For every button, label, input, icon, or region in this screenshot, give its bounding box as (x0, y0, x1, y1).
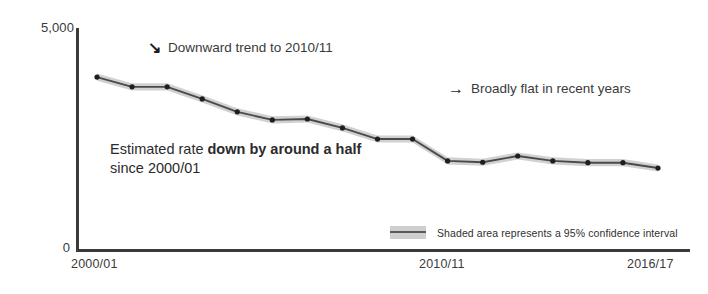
data-point (585, 160, 590, 165)
annotation-broadly-flat-text: Broadly flat in recent years (471, 81, 631, 96)
data-point (655, 165, 660, 170)
legend-label: Shaded area represents a 95% confidence … (437, 227, 678, 239)
data-point (480, 160, 485, 165)
data-point (270, 117, 275, 122)
data-point (620, 160, 625, 165)
chart-canvas: 5,000 0 2000/01 2010/11 2016/17 ↘Downwar… (0, 0, 708, 294)
legend-swatch-confidence-band (390, 226, 426, 239)
arrow-down-right-icon: ↘ (148, 38, 161, 57)
annotation-half-emphasis: down by around a half (208, 141, 362, 157)
data-point (340, 125, 345, 130)
data-point (129, 84, 134, 89)
chart-legend: Shaded area represents a 95% confidence … (390, 226, 678, 239)
data-point (515, 153, 520, 158)
annotation-down-by-half-line2: since 2000/01 (110, 159, 361, 178)
data-point (305, 116, 310, 121)
annotation-downward-trend-text: Downward trend to 2010/11 (168, 40, 333, 55)
data-point (375, 136, 380, 141)
data-point (550, 158, 555, 163)
annotation-half-prefix: Estimated rate (110, 141, 208, 157)
data-point (200, 96, 205, 101)
data-point (165, 84, 170, 89)
arrow-right-icon: → (448, 80, 464, 98)
annotation-downward-trend: ↘Downward trend to 2010/11 (148, 38, 333, 57)
data-point (235, 109, 240, 114)
annotation-down-by-half-line1: Estimated rate down by around a half (110, 140, 361, 159)
annotation-down-by-half: Estimated rate down by around a half sin… (110, 140, 361, 178)
data-point (410, 136, 415, 141)
data-point (94, 74, 99, 79)
annotation-broadly-flat: →Broadly flat in recent years (448, 80, 631, 98)
data-point (445, 158, 450, 163)
